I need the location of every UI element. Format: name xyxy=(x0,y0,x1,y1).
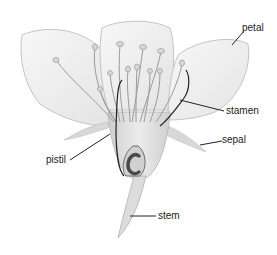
pistil-leader xyxy=(70,134,110,160)
label-stamen: stamen xyxy=(226,106,259,116)
left-petal xyxy=(21,29,111,125)
flower-diagram xyxy=(0,0,277,255)
stem xyxy=(118,176,146,238)
label-petal: petal xyxy=(242,23,264,33)
left-sepal xyxy=(64,122,110,140)
label-stem: stem xyxy=(158,211,180,221)
label-sepal: sepal xyxy=(222,135,246,145)
right-sepal xyxy=(164,126,206,152)
label-pistil: pistil xyxy=(46,155,66,165)
sepal-leader xyxy=(200,141,222,145)
